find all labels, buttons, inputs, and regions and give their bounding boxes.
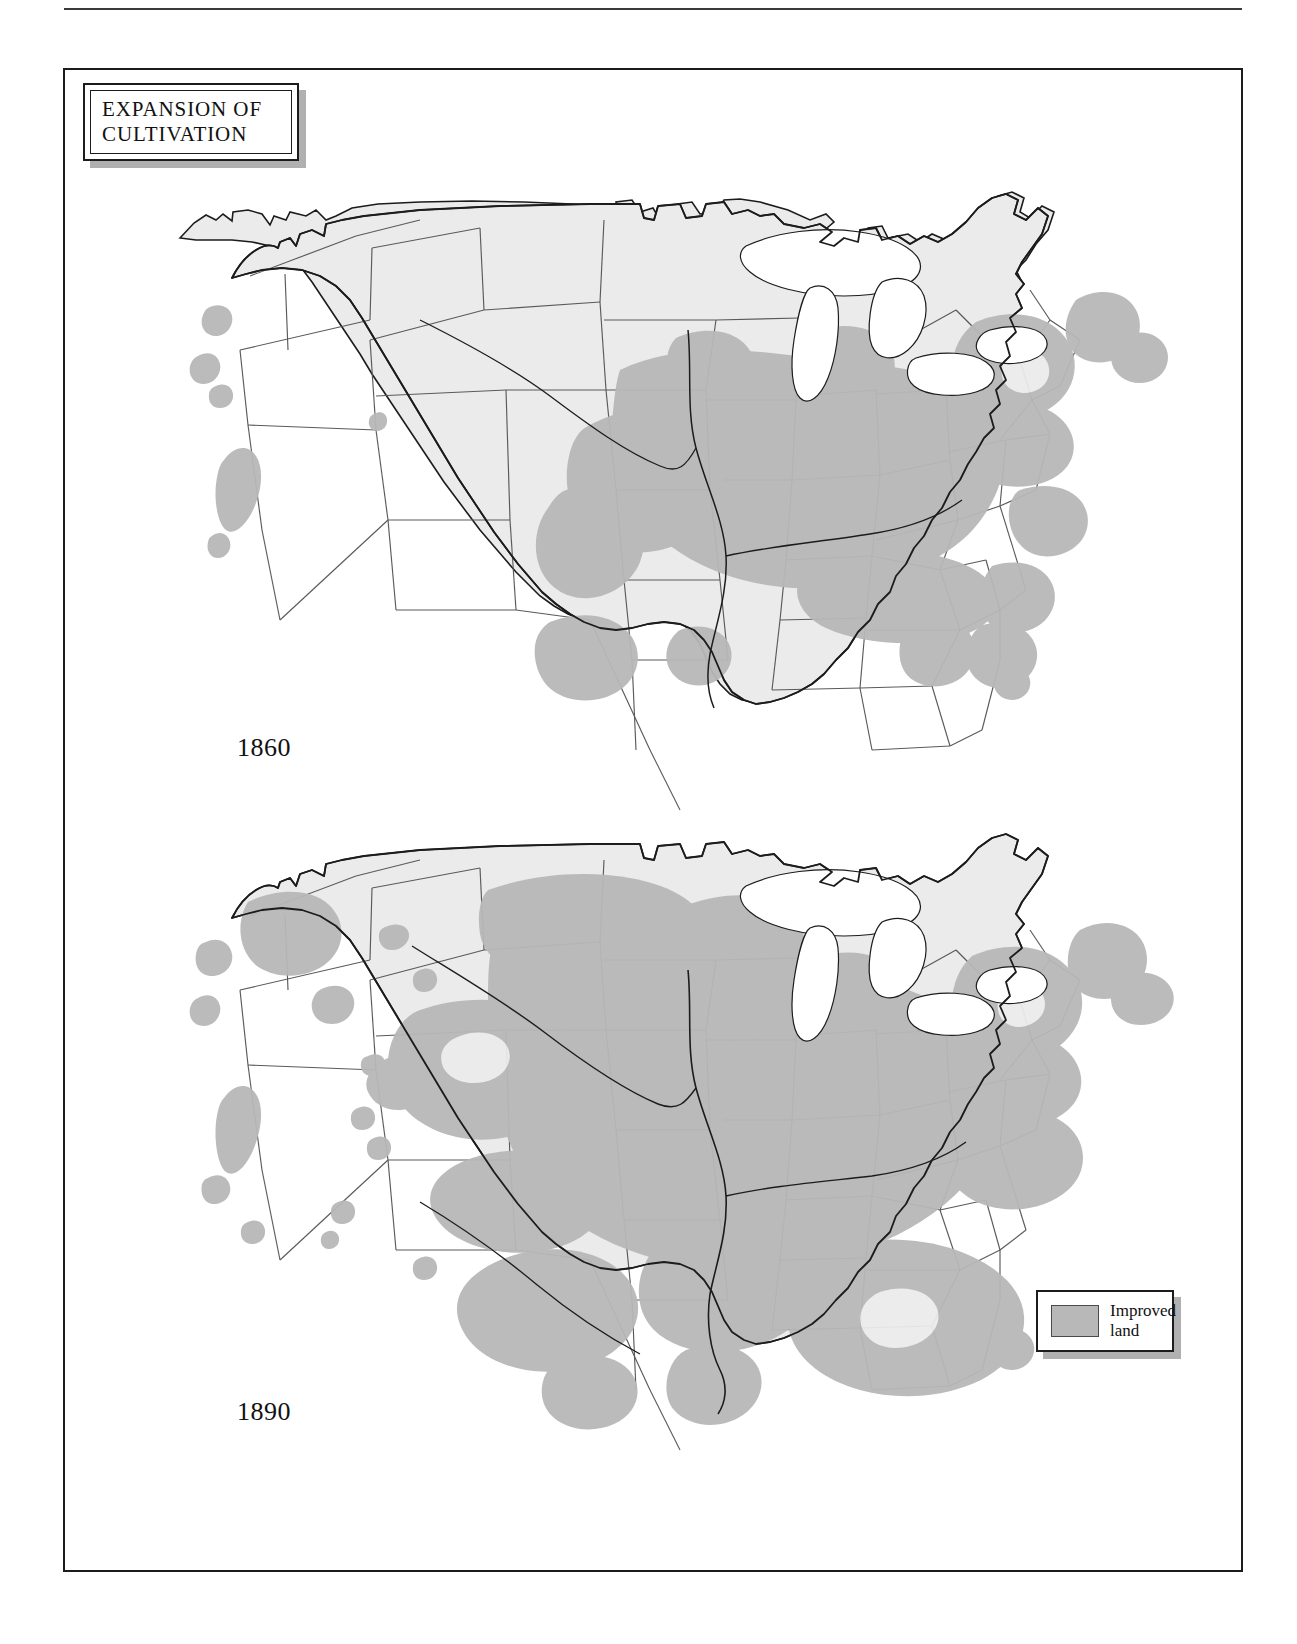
lake-ontario-1890 [976,967,1047,1004]
year-label-1890: 1890 [237,1397,291,1427]
improved-land-1890 [190,874,1174,1429]
legend-box: Improved land [1036,1290,1174,1352]
lake-erie-1860 [907,353,994,395]
map-1890-layers [190,834,1174,1450]
title-inner-border: EXPANSION OF CULTIVATION [90,90,292,154]
lake-ontario-1860 [976,327,1047,364]
year-label-1860: 1860 [237,733,291,763]
page-top-rule [64,8,1242,10]
title-outer-border: EXPANSION OF CULTIVATION [83,83,299,161]
figure-title-line-2: CULTIVATION [102,122,291,147]
legend-swatch-improved-land [1051,1305,1099,1337]
map-1860-layers [180,192,1168,810]
legend-label-line-2: land [1110,1321,1176,1341]
figure-title-line-1: EXPANSION OF [102,97,291,122]
figure-page: EXPANSION OF CULTIVATION [0,0,1297,1644]
title-cartouche: EXPANSION OF CULTIVATION [83,83,299,161]
lake-erie-1890 [907,993,994,1035]
legend-label-improved-land: Improved land [1110,1301,1176,1341]
legend-label-line-1: Improved [1110,1301,1176,1321]
figure-frame: EXPANSION OF CULTIVATION [63,68,1243,1572]
map-legend: Improved land [1036,1290,1174,1352]
